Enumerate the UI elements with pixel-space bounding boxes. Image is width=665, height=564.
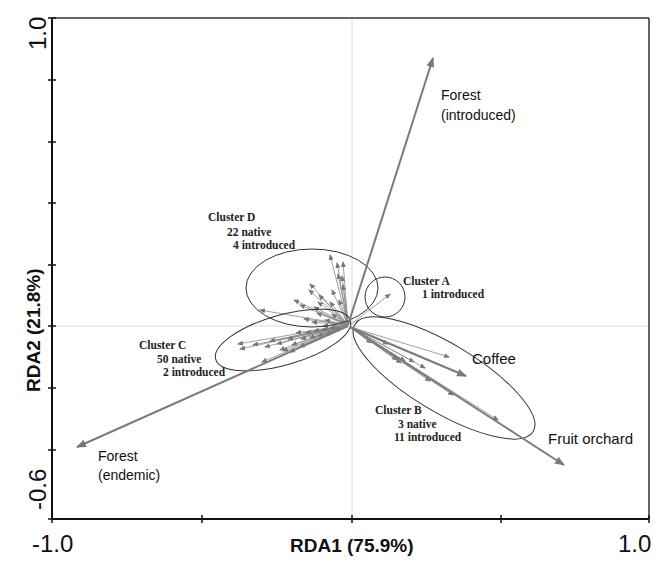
cluster-a-label: Cluster A 1 introduced bbox=[403, 275, 485, 300]
coffee-label: Coffee bbox=[472, 350, 516, 367]
forest-introduced-label-line2: (introduced) bbox=[441, 107, 516, 123]
forest-endemic-label-line1: Forest bbox=[98, 448, 138, 464]
rda-biplot: -1.0 1.0 1.0 -0.6 RDA1 (75.9%) RDA2 (21.… bbox=[0, 0, 665, 564]
coffee-vector bbox=[350, 327, 466, 376]
svg-text:Cluster D: Cluster D bbox=[208, 211, 255, 223]
fruit-orchard-vector bbox=[350, 327, 564, 465]
cluster-a-ellipse bbox=[365, 277, 405, 317]
fruit-orchard-label: Fruit orchard bbox=[548, 430, 633, 447]
cluster-d-ellipse bbox=[246, 249, 378, 327]
y-max-tick-label: 1.0 bbox=[24, 17, 51, 50]
cluster-b-label: Cluster B 3 native 11 introduced bbox=[375, 404, 462, 443]
forest-introduced-label-line1: Forest bbox=[441, 87, 481, 103]
x-max-tick-label: 1.0 bbox=[618, 530, 651, 557]
svg-text:3 native: 3 native bbox=[398, 418, 437, 430]
svg-text:2 introduced: 2 introduced bbox=[163, 366, 226, 378]
forest-endemic-label-line2: (endemic) bbox=[98, 467, 160, 483]
svg-text:50 native: 50 native bbox=[157, 353, 201, 365]
svg-text:Cluster C: Cluster C bbox=[139, 339, 186, 351]
svg-text:22 native: 22 native bbox=[227, 226, 271, 238]
svg-text:11 introduced: 11 introduced bbox=[394, 431, 462, 443]
cluster-c-ellipse bbox=[209, 297, 357, 384]
cluster-d-species-arrows bbox=[260, 255, 348, 325]
svg-text:4 introduced: 4 introduced bbox=[233, 239, 296, 251]
forest-endemic-vector bbox=[77, 326, 348, 447]
svg-text:Cluster A: Cluster A bbox=[403, 275, 450, 287]
svg-text:1 introduced: 1 introduced bbox=[422, 288, 485, 300]
cluster-d-label: Cluster D 22 native 4 introduced bbox=[208, 211, 296, 251]
x-min-tick-label: -1.0 bbox=[32, 530, 73, 557]
cluster-c-species-arrows bbox=[238, 325, 348, 362]
x-axis-title: RDA1 (75.9%) bbox=[290, 535, 414, 556]
svg-text:Cluster B: Cluster B bbox=[375, 404, 422, 416]
y-axis-title: RDA2 (21.8%) bbox=[23, 268, 44, 392]
y-min-tick-label: -0.6 bbox=[24, 469, 51, 510]
cluster-c-label: Cluster C 50 native 2 introduced bbox=[139, 339, 226, 378]
